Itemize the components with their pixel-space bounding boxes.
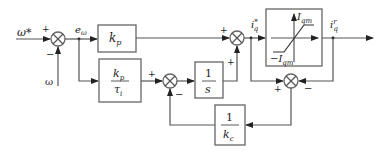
summing-junction-1 bbox=[51, 32, 65, 46]
sum1-plus: + bbox=[42, 24, 50, 34]
iq-ref-label: i*q bbox=[251, 18, 259, 33]
summing-junction-3 bbox=[230, 31, 244, 45]
kc-numerator: 1 bbox=[226, 111, 233, 124]
sum4-minus: − bbox=[304, 83, 312, 94]
sum4-plus: + bbox=[274, 84, 282, 94]
sum4-to-kc-line bbox=[246, 88, 291, 125]
omega-label: ω bbox=[45, 76, 53, 87]
summing-junction-4 bbox=[284, 74, 298, 88]
iq-out-label: irq bbox=[330, 18, 339, 33]
integrator-numerator: 1 bbox=[205, 67, 212, 80]
omega-ref-label: ω* bbox=[17, 26, 32, 39]
sum1-minus: − bbox=[46, 49, 54, 60]
sum2-minus: − bbox=[175, 89, 183, 100]
sum3-plus-left: + bbox=[220, 25, 228, 35]
sum2-plus: + bbox=[148, 69, 156, 79]
pi-antiwindup-diagram: ω* + ω − eω kp + kp τi + − 1 s + bbox=[0, 0, 389, 154]
error-label: eω bbox=[75, 24, 87, 37]
summing-junction-2 bbox=[163, 74, 177, 88]
integrator-denominator: s bbox=[205, 83, 211, 96]
sum3-plus-bottom: + bbox=[227, 57, 235, 67]
error-to-ki-line bbox=[79, 39, 98, 81]
